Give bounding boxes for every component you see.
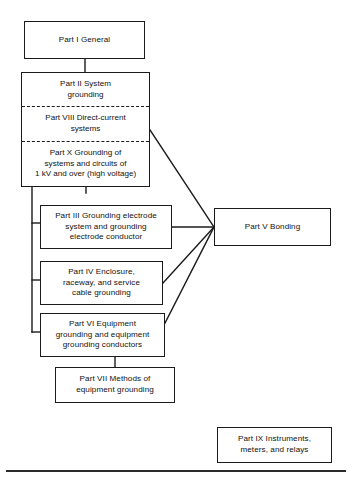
node-system-grounding-group[interactable]: Part II System grounding Part VIII Direc… [21, 72, 150, 187]
node-part-v-bonding[interactable]: Part V Bonding [214, 208, 331, 246]
segment-part-x-high-voltage[interactable]: Part X Grounding of systems and circuits… [22, 141, 149, 186]
node-part-vii-methods[interactable]: Part VII Methods of equipment grounding [55, 367, 175, 403]
node-part-iv-label: Part IV Enclosure, raceway, and service … [60, 267, 143, 299]
node-part-iii-grounding-electrode[interactable]: Part III Grounding electrode system and … [40, 205, 172, 249]
footer-rule [6, 470, 346, 472]
segment-part-ii-system-grounding[interactable]: Part II System grounding [22, 73, 149, 106]
segment-part-ii-label: Part II System grounding [58, 79, 113, 101]
segment-part-x-label: Part X Grounding of systems and circuits… [33, 148, 138, 180]
node-part-vii-label: Part VII Methods of equipment grounding [73, 374, 157, 396]
segment-part-viii-label: Part VIII Direct-current systems [43, 113, 128, 135]
node-part-i-general[interactable]: Part I General [24, 21, 145, 59]
node-part-vi-equipment-grounding[interactable]: Part VI Equipment grounding and equipmen… [40, 313, 165, 357]
node-part-i-general-label: Part I General [56, 35, 114, 46]
node-part-v-label: Part V Bonding [242, 222, 304, 233]
node-part-iii-label: Part III Grounding electrode system and … [52, 211, 160, 243]
diagram-page: Part I General Part II System grounding … [0, 0, 355, 478]
segment-part-viii-direct-current[interactable]: Part VIII Direct-current systems [22, 106, 149, 140]
node-part-vi-label: Part VI Equipment grounding and equipmen… [53, 319, 153, 351]
node-part-ix-instruments[interactable]: Part IX Instruments, meters, and relays [217, 427, 332, 463]
connector-part-vi-to-part-v [165, 227, 214, 323]
node-part-iv-enclosure[interactable]: Part IV Enclosure, raceway, and service … [40, 261, 163, 305]
node-part-ix-label: Part IX Instruments, meters, and relays [235, 434, 314, 456]
